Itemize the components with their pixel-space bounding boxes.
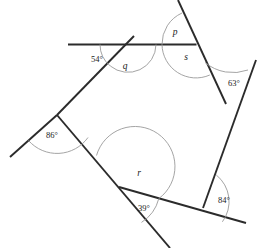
diagram-canvas: 54° q p s 63° 86° r 39° 84° bbox=[0, 0, 260, 248]
label-39: 39° bbox=[138, 203, 150, 213]
label-86: 86° bbox=[46, 130, 58, 140]
segment-group bbox=[10, 0, 256, 248]
segment-left-to-bottom bbox=[57, 115, 170, 248]
arc-r bbox=[97, 126, 175, 198]
label-54: 54° bbox=[91, 54, 103, 64]
label-p: p bbox=[172, 27, 178, 37]
segment-upper-left-diagonal bbox=[57, 36, 134, 115]
label-63: 63° bbox=[228, 78, 240, 88]
label-q: q bbox=[123, 61, 128, 71]
geometry-diagram: 54° q p s 63° 86° r 39° 84° bbox=[0, 0, 260, 248]
label-r: r bbox=[137, 168, 141, 178]
label-s: s bbox=[184, 52, 188, 62]
label-84: 84° bbox=[218, 195, 230, 205]
arc-q bbox=[110, 45, 156, 73]
